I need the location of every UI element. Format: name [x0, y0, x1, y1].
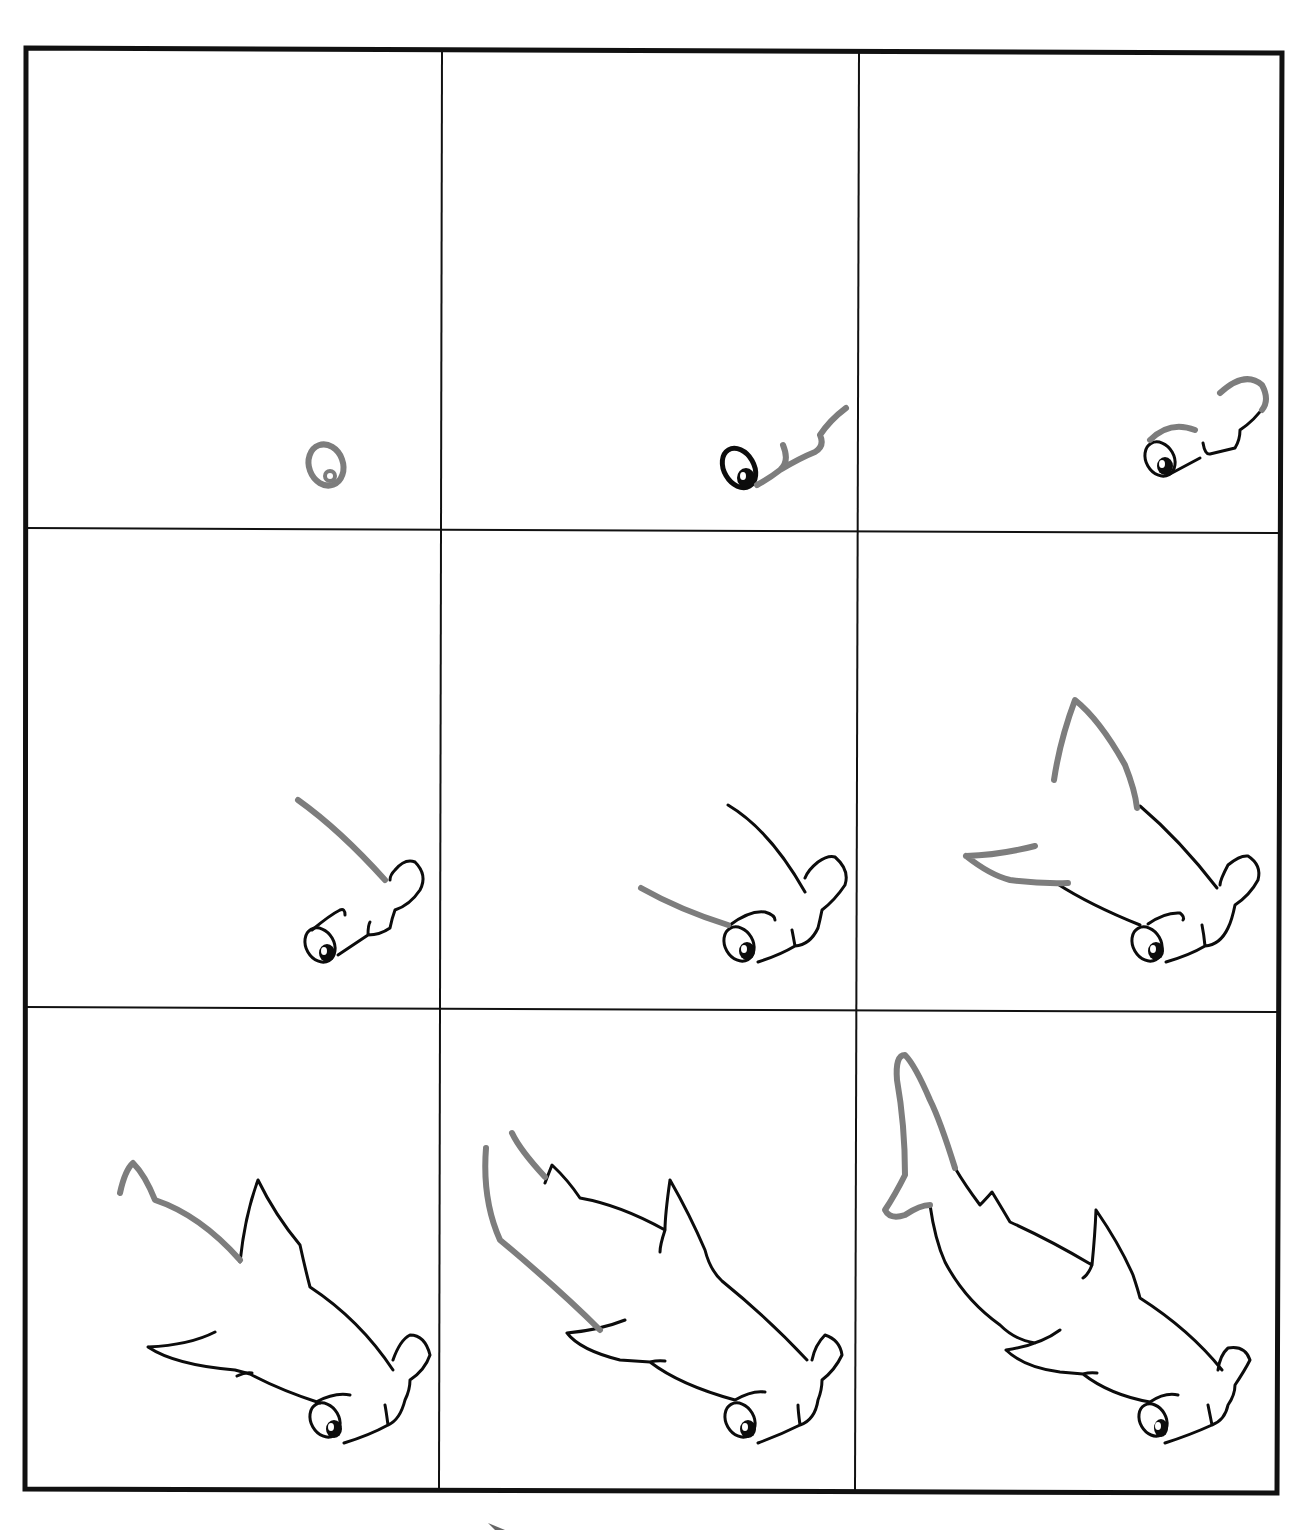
step-5-panel: [641, 805, 846, 967]
step-2-panel: [716, 408, 846, 494]
grid-horizontal-1: [26, 528, 1280, 533]
grid-vertical-2: [855, 51, 859, 1492]
step-7-panel: [120, 1163, 430, 1443]
step-1-panel: [303, 439, 349, 490]
grid-vertical-1: [439, 50, 442, 1490]
grid-horizontal-2: [25, 1007, 1279, 1012]
step-4-panel: [298, 800, 423, 968]
arrow-fragment-mark: [488, 1523, 505, 1530]
drawing-sheet: [0, 0, 1304, 1530]
step-3-panel: [1139, 379, 1266, 482]
step-6-panel: [966, 700, 1259, 967]
outer-frame: [25, 48, 1282, 1493]
step-9-panel: [885, 1055, 1250, 1443]
step-8-panel: [485, 1133, 842, 1443]
